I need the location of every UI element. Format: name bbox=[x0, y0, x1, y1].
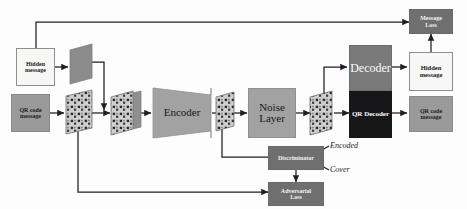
hidden-message-output-line2: message bbox=[420, 72, 443, 79]
discriminator-box[interactable]: Discriminator bbox=[268, 146, 324, 170]
noise-layer-box[interactable]: Noise Layer bbox=[248, 88, 296, 138]
cover-qr-tensor bbox=[66, 90, 92, 134]
edge-hidden-tensor-to-stack bbox=[92, 62, 104, 110]
qr-decoder-text: QR Decoder bbox=[352, 111, 389, 118]
decoder-box[interactable]: Decoder bbox=[349, 45, 392, 91]
diagram-connections bbox=[0, 0, 467, 209]
hidden-message-output-box[interactable]: Hidden message bbox=[409, 52, 453, 91]
noise-layer-line2: Layer bbox=[259, 113, 285, 124]
message-loss-line1: Message bbox=[420, 15, 442, 21]
stacked-input-tensor bbox=[111, 91, 133, 135]
qr-code-message-input-line2: message bbox=[19, 113, 41, 119]
qr-code-message-output-line2: message bbox=[420, 114, 442, 120]
diagram-canvas: Hidden message QR code message Encoder N… bbox=[0, 0, 467, 209]
cover-text: Cover bbox=[330, 166, 350, 174]
message-loss-line2: Loss bbox=[420, 22, 442, 28]
message-loss-box[interactable]: Message Loss bbox=[409, 9, 453, 34]
encoder-text: Encoder bbox=[164, 107, 201, 118]
qr-decoder-box[interactable]: QR Decoder bbox=[349, 91, 392, 138]
noised-image-tensor bbox=[310, 91, 332, 135]
encoder-label[interactable]: Encoder bbox=[153, 88, 211, 138]
encoded-text: Encoded bbox=[330, 142, 358, 150]
adversarial-loss-box[interactable]: Adversarial Loss bbox=[268, 182, 324, 206]
hidden-message-input-line2: message bbox=[25, 67, 46, 73]
encoded-image-tensor bbox=[216, 92, 234, 131]
cover-label: Cover bbox=[330, 163, 378, 177]
decoder-text: Decoder bbox=[350, 62, 391, 74]
hidden-message-input-box[interactable]: Hidden message bbox=[16, 48, 55, 86]
encoded-label: Encoded bbox=[330, 139, 378, 153]
qr-code-message-output-box[interactable]: QR code message bbox=[409, 96, 453, 132]
qr-code-message-input-box[interactable]: QR code message bbox=[11, 94, 50, 132]
adversarial-loss-line2: Loss bbox=[281, 194, 311, 200]
hidden-message-tensor bbox=[70, 44, 92, 84]
discriminator-text: Discriminator bbox=[278, 155, 314, 161]
